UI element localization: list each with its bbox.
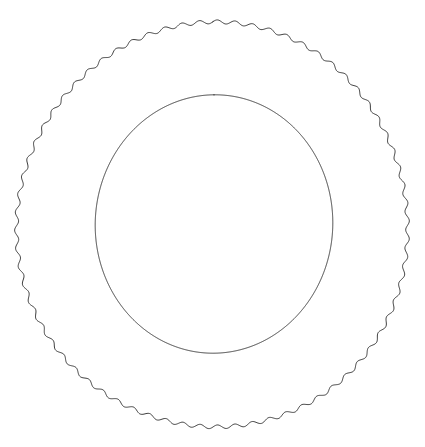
plate-line-drawing: Plate Line Drawing Outline drawing of a … [0,0,425,447]
background-rect [0,0,425,447]
drawing-canvas: Plate Line Drawing Outline drawing of a … [0,0,425,447]
